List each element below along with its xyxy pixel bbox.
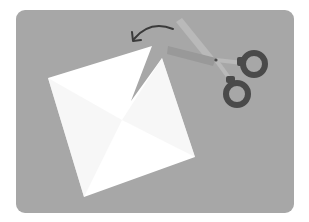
scissors-handle-tab <box>226 76 235 83</box>
scissors-pivot <box>214 58 217 61</box>
scissors-handle-tab <box>237 57 244 66</box>
illustration <box>0 0 309 222</box>
